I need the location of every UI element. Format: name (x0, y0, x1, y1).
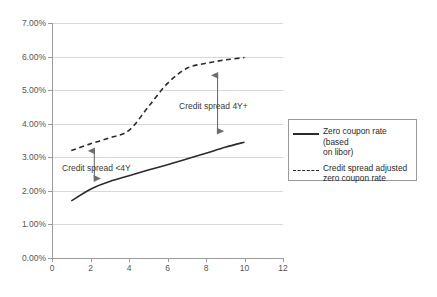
legend-item-label: Credit spread adjusted zero coupon rate (323, 163, 407, 184)
x-axis-tick-mark (52, 258, 53, 262)
gridline (52, 23, 283, 24)
gridline (52, 57, 283, 58)
x-axis-tick-label: 4 (114, 263, 144, 273)
x-axis-tick-mark (245, 258, 246, 262)
x-axis-tick-label: 6 (153, 263, 183, 273)
annotation-label-credit-spread-lt-4y: Credit spread <4Y (62, 163, 131, 173)
x-axis-tick-mark (206, 258, 207, 262)
y-axis-line (52, 23, 53, 259)
chart-legend: Zero coupon rate (based on libor) Credit… (288, 119, 417, 181)
y-axis-tick-label: 3.00% (0, 152, 46, 162)
legend-dashed-line-icon (293, 166, 319, 176)
x-axis-tick-mark (168, 258, 169, 262)
legend-item-zero-coupon-rate: Zero coupon rate (based on libor) (293, 126, 412, 158)
gridline (52, 124, 283, 125)
x-axis-tick-label: 12 (268, 263, 298, 273)
legend-item-label: Zero coupon rate (based on libor) (323, 126, 412, 158)
gridline (52, 90, 283, 91)
chart-figure: 0.00%1.00%2.00%3.00%4.00%5.00%6.00%7.00%… (0, 0, 437, 297)
legend-item-credit-spread-adjusted: Credit spread adjusted zero coupon rate (293, 163, 412, 184)
y-axis-tick-label: 7.00% (0, 18, 46, 28)
legend-solid-line-icon (293, 129, 319, 139)
x-axis-tick-mark (283, 258, 284, 262)
y-axis-tick-label: 6.00% (0, 52, 46, 62)
x-axis-tick-mark (129, 258, 130, 262)
y-axis-tick-label: 1.00% (0, 219, 46, 229)
annotation-label-credit-spread-4y-plus: Credit spread 4Y+ (179, 101, 248, 111)
x-axis-tick-label: 2 (76, 263, 106, 273)
gridline (52, 157, 283, 158)
y-axis-tick-label: 5.00% (0, 85, 46, 95)
x-axis-tick-label: 0 (37, 263, 67, 273)
gridline (52, 224, 283, 225)
y-axis-tick-label: 4.00% (0, 119, 46, 129)
gridline (52, 191, 283, 192)
x-axis-tick-mark (91, 258, 92, 262)
x-axis-tick-label: 8 (191, 263, 221, 273)
y-axis-tick-label: 2.00% (0, 186, 46, 196)
y-axis-tick-label: 0.00% (0, 253, 46, 263)
x-axis-tick-label: 10 (230, 263, 260, 273)
